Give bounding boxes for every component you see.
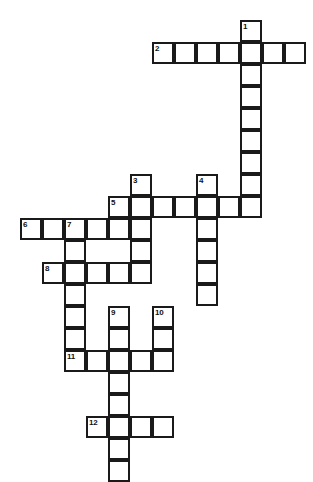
crossword-cell[interactable] xyxy=(64,328,86,350)
crossword-cell[interactable] xyxy=(130,218,152,240)
crossword-cell[interactable] xyxy=(240,64,262,86)
crossword-cell[interactable] xyxy=(64,262,86,284)
cell-number: 5 xyxy=(111,198,115,207)
crossword-cell[interactable] xyxy=(152,328,174,350)
crossword-cell[interactable] xyxy=(108,416,130,438)
crossword-cell[interactable] xyxy=(108,350,130,372)
crossword-cell[interactable] xyxy=(108,438,130,460)
crossword-cell[interactable]: 5 xyxy=(108,196,130,218)
cell-number: 8 xyxy=(45,264,49,273)
crossword-cell[interactable] xyxy=(152,350,174,372)
crossword-cell[interactable] xyxy=(108,460,130,482)
crossword-cell[interactable] xyxy=(86,218,108,240)
cell-number: 11 xyxy=(67,352,75,361)
crossword-cell[interactable]: 6 xyxy=(20,218,42,240)
crossword-cell[interactable] xyxy=(130,350,152,372)
crossword-cell[interactable] xyxy=(174,196,196,218)
crossword-cell[interactable]: 3 xyxy=(130,174,152,196)
crossword-cell[interactable]: 4 xyxy=(196,174,218,196)
crossword-cell[interactable] xyxy=(262,42,284,64)
crossword-cell[interactable] xyxy=(284,42,306,64)
crossword-cell[interactable] xyxy=(218,42,240,64)
crossword-cell[interactable]: 1 xyxy=(240,20,262,42)
cell-number: 7 xyxy=(67,220,71,229)
crossword-cell[interactable] xyxy=(86,262,108,284)
cell-number: 12 xyxy=(89,418,97,427)
crossword-cell[interactable]: 9 xyxy=(108,306,130,328)
crossword-cell[interactable] xyxy=(130,240,152,262)
crossword-cell[interactable] xyxy=(64,284,86,306)
crossword-cell[interactable] xyxy=(196,42,218,64)
crossword-cell[interactable]: 7 xyxy=(64,218,86,240)
cell-number: 9 xyxy=(111,308,115,317)
crossword-cell[interactable] xyxy=(240,42,262,64)
crossword-cell[interactable] xyxy=(42,218,64,240)
crossword-cell[interactable] xyxy=(196,196,218,218)
cell-number: 1 xyxy=(243,22,247,31)
crossword-cell[interactable] xyxy=(108,394,130,416)
crossword-cell[interactable] xyxy=(240,108,262,130)
crossword-cell[interactable] xyxy=(240,196,262,218)
crossword-cell[interactable] xyxy=(240,86,262,108)
crossword-cell[interactable] xyxy=(86,350,108,372)
crossword-cell[interactable] xyxy=(108,218,130,240)
cell-number: 6 xyxy=(23,220,27,229)
crossword-cell[interactable] xyxy=(196,262,218,284)
crossword-cell[interactable] xyxy=(152,416,174,438)
crossword-cell[interactable] xyxy=(218,196,240,218)
crossword-cell[interactable] xyxy=(108,262,130,284)
crossword-cell[interactable] xyxy=(196,240,218,262)
crossword-cell[interactable] xyxy=(108,328,130,350)
cell-number: 2 xyxy=(155,44,159,53)
crossword-cell[interactable] xyxy=(64,240,86,262)
crossword-cell[interactable] xyxy=(130,262,152,284)
crossword-cell[interactable] xyxy=(240,152,262,174)
cell-number: 10 xyxy=(155,308,163,317)
crossword-cell[interactable] xyxy=(108,372,130,394)
crossword-cell[interactable] xyxy=(130,196,152,218)
crossword-cell[interactable]: 8 xyxy=(42,262,64,284)
crossword-cell[interactable] xyxy=(196,284,218,306)
crossword-cell[interactable] xyxy=(196,218,218,240)
crossword-cell[interactable] xyxy=(174,42,196,64)
cell-number: 4 xyxy=(199,176,203,185)
crossword-cell[interactable]: 12 xyxy=(86,416,108,438)
crossword-cell[interactable] xyxy=(152,196,174,218)
crossword-cell[interactable] xyxy=(240,130,262,152)
crossword-cell[interactable]: 10 xyxy=(152,306,174,328)
crossword-cell[interactable]: 11 xyxy=(64,350,86,372)
crossword-cell[interactable] xyxy=(240,174,262,196)
cell-number: 3 xyxy=(133,176,137,185)
crossword-cell[interactable] xyxy=(130,416,152,438)
crossword-cell[interactable]: 2 xyxy=(152,42,174,64)
crossword-cell[interactable] xyxy=(64,306,86,328)
